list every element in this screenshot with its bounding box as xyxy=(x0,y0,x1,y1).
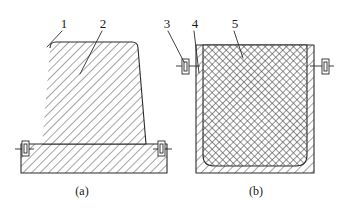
callout-number-2: 2 xyxy=(100,16,107,31)
subfigure-caption-b: (b) xyxy=(249,184,263,198)
callout-number-3: 3 xyxy=(164,16,171,31)
technical-drawing-svg: 1 2 (a) xyxy=(0,0,346,210)
base-plate-a xyxy=(21,144,167,173)
clamp-right-a-inner xyxy=(160,144,163,153)
base-plate-hatch-fill-a xyxy=(21,144,167,173)
core-region-b xyxy=(203,45,307,166)
trapezoid-hatch-fill-a xyxy=(42,42,146,144)
clamp-left-a-inner xyxy=(24,144,27,153)
leader-line-3 xyxy=(168,31,184,62)
clamp-right-b-inner xyxy=(324,62,327,71)
callout-number-1: 1 xyxy=(61,16,68,31)
callout-number-5: 5 xyxy=(232,16,239,31)
core-crosshatch-fill-b xyxy=(203,45,307,166)
technical-figure-container: 1 2 (a) xyxy=(0,0,346,210)
subfigure-b: 3 4 5 (b) xyxy=(164,16,334,198)
callout-number-4: 4 xyxy=(192,16,199,31)
trapezoid-body-a xyxy=(42,42,146,144)
subfigure-a: 1 2 (a) xyxy=(15,16,172,198)
subfigure-caption-a: (a) xyxy=(75,184,88,198)
clamp-left-b-inner xyxy=(184,62,187,71)
